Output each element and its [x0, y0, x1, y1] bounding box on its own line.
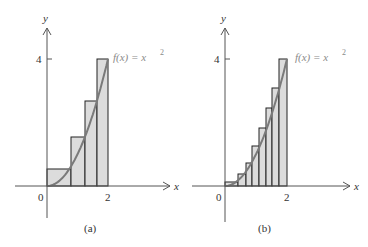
tick-label-origin: 0 [216, 191, 222, 203]
riemann-sum-figure: xy024f(x) = x2(a) xy024f(x) = x2(b) [0, 0, 368, 247]
panel-a: xy024f(x) = x2(a) [15, 12, 179, 235]
tick-label-x2: 2 [105, 191, 111, 203]
function-label: f(x) = x [295, 51, 328, 64]
function-label: f(x) = x [113, 51, 146, 64]
tick-label-origin: 0 [38, 191, 44, 203]
tick-label-x2: 2 [284, 191, 290, 203]
tick-label-y4: 4 [36, 53, 42, 65]
function-label-exponent: 2 [160, 48, 164, 57]
riemann-rectangle [259, 128, 266, 186]
y-axis-label: y [220, 12, 226, 24]
riemann-rectangle [85, 101, 97, 186]
x-axis-label: x [173, 180, 179, 192]
panel-caption: (a) [84, 222, 97, 235]
panel-caption: (b) [258, 222, 271, 235]
panel-b: xy024f(x) = x2(b) [192, 12, 359, 235]
function-label-exponent: 2 [342, 48, 346, 57]
y-axis-label: y [42, 12, 48, 24]
x-axis-label: x [353, 180, 359, 192]
tick-label-y4: 4 [214, 53, 220, 65]
